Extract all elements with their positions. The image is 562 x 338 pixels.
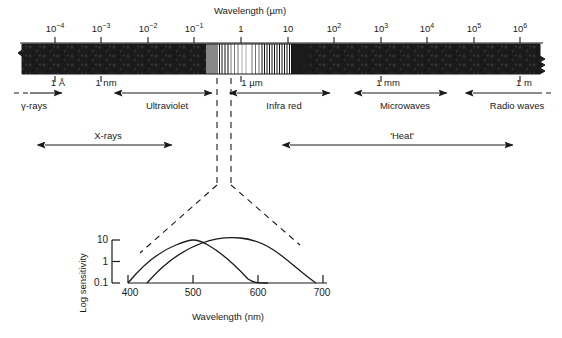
spectrum-bar bbox=[18, 44, 546, 75]
band-label-microwaves: Microwaves bbox=[380, 101, 430, 111]
spectrum-tick-label-6: 102 bbox=[327, 24, 341, 34]
unit-marker-micrometre: 1 µm bbox=[241, 78, 262, 88]
band-label-heat: 'Heat' bbox=[390, 131, 414, 141]
spectrum-tick-label-0: 10−4 bbox=[46, 24, 65, 34]
spectrum-tick-label-2: 10−2 bbox=[139, 24, 158, 34]
spectrum-tick-label-4: 1 bbox=[238, 24, 243, 34]
spectrum-tick-label-5: 10 bbox=[283, 24, 294, 34]
band-label-ultraviolet: Ultraviolet bbox=[146, 101, 188, 111]
chart-xtick-label-400: 400 bbox=[122, 288, 139, 298]
band-label-infra-red: Infra red bbox=[266, 101, 301, 111]
unit-marker-ticks bbox=[55, 76, 520, 82]
spectrum-tick-label-1: 10−3 bbox=[92, 24, 111, 34]
visible-window-callout-diagonals bbox=[140, 185, 300, 253]
spectrum-tick-label-7: 103 bbox=[374, 24, 388, 34]
spectrum-axis-title: Wavelength (µm) bbox=[214, 6, 286, 16]
chart-x-ticks bbox=[128, 275, 323, 283]
sensitivity-chart bbox=[112, 238, 327, 283]
unit-marker-nanometre: 1 nm bbox=[95, 78, 116, 88]
band-label-gamma-rays: γ-rays bbox=[21, 101, 47, 111]
chart-ytick-label-10: 10 bbox=[97, 235, 108, 245]
spectrum-tick-label-3: 10−1 bbox=[185, 24, 204, 34]
band-label-x-rays: X-rays bbox=[94, 131, 121, 141]
chart-ytick-label-0-1: 0.1 bbox=[94, 278, 108, 288]
chart-xtick-label-600: 600 bbox=[250, 288, 267, 298]
electromagnetic-spectrum-figure: Wavelength (µm) 10−4 10−3 10−2 10−1 1 10… bbox=[0, 0, 562, 338]
unit-marker-angstrom: 1 Å bbox=[51, 78, 65, 88]
spectrum-tick-label-9: 105 bbox=[467, 24, 481, 34]
spectrum-axis-ticks bbox=[55, 37, 520, 43]
scotopic-curve bbox=[128, 240, 268, 283]
chart-ytick-label-1: 1 bbox=[102, 257, 108, 267]
photopic-curve bbox=[147, 238, 316, 283]
chart-x-axis-title: Wavelength (nm) bbox=[192, 312, 264, 322]
visible-light-window bbox=[206, 44, 292, 75]
unit-marker-metre: 1 m bbox=[516, 78, 532, 88]
chart-y-axis bbox=[112, 240, 120, 283]
spectrum-tick-label-10: 106 bbox=[513, 24, 527, 34]
chart-xtick-label-500: 500 bbox=[185, 288, 202, 298]
visible-window-callout-verticals bbox=[217, 78, 231, 185]
unit-marker-millimetre: 1 mm bbox=[376, 78, 400, 88]
chart-xtick-label-700: 700 bbox=[314, 288, 331, 298]
band-label-radio-waves: Radio waves bbox=[490, 101, 544, 111]
spectrum-tick-label-8: 104 bbox=[420, 24, 434, 34]
chart-y-axis-title: Log sensitivity bbox=[78, 253, 88, 313]
